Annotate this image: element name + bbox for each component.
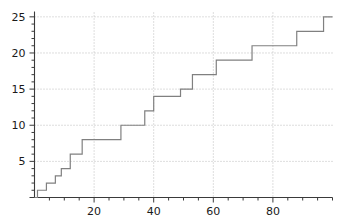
y-tick-label: 15 xyxy=(12,83,26,96)
y-tick-label: 20 xyxy=(12,47,26,60)
y-tick-label: 25 xyxy=(12,11,26,24)
x-tick-label: 80 xyxy=(266,205,280,218)
x-tick-label: 60 xyxy=(206,205,220,218)
chart-container: 20406080 510152025 xyxy=(0,0,339,222)
step-chart: 20406080 510152025 xyxy=(0,0,339,222)
axis-ticks xyxy=(30,17,333,203)
step-line xyxy=(35,17,333,198)
data-series xyxy=(35,17,333,198)
x-tick-label: 40 xyxy=(147,205,161,218)
y-tick-labels: 510152025 xyxy=(12,11,26,169)
y-tick-label: 10 xyxy=(12,119,26,132)
x-tick-labels: 20406080 xyxy=(87,205,280,218)
y-tick-label: 5 xyxy=(19,155,26,168)
gridlines xyxy=(35,13,333,198)
x-tick-label: 20 xyxy=(87,205,101,218)
axes xyxy=(30,12,333,198)
